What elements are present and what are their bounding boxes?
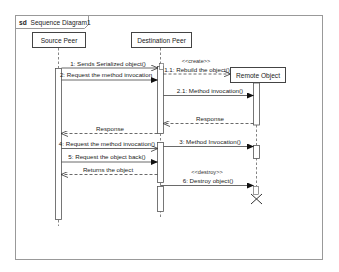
message-1[interactable]: 1: Sends Serialized object() — [62, 60, 158, 68]
lifeline-label: Destination Peer — [137, 37, 187, 44]
svg-text:<<create>>: <<create>> — [182, 58, 211, 64]
svg-text:1: Sends Serialized object(): 1: Sends Serialized object() — [70, 60, 146, 67]
svg-text:2.1: Method invocation(): 2.1: Method invocation() — [177, 87, 243, 94]
activation-bar — [158, 143, 164, 183]
lifeline-label: Remote Object — [236, 72, 280, 80]
svg-text:1.1: Rebuild the object(): 1.1: Rebuild the object() — [164, 66, 230, 73]
frame-title: sd Sequence Diagram1 — [19, 19, 91, 27]
activation-bar — [254, 187, 259, 195]
activation-bar-nested — [160, 64, 164, 70]
svg-text:3: Method Invocation(): 3: Method Invocation() — [179, 138, 241, 145]
svg-text:2: Request the method invocati: 2: Request the method invocation — [60, 71, 153, 78]
activation-bar — [254, 146, 260, 159]
lifeline-label: Source Peer — [41, 37, 78, 44]
svg-text:<<destroy>>: <<destroy>> — [191, 169, 222, 175]
svg-text:Response: Response — [196, 115, 224, 122]
activation-bar — [158, 67, 164, 134]
svg-text:4: Request the method invocati: 4: Request the method invocation() — [59, 140, 155, 147]
svg-text:6: Destroy object(): 6: Destroy object() — [183, 177, 234, 184]
svg-text:Returns the object: Returns the object — [83, 166, 133, 173]
activation-bar — [158, 187, 164, 212]
activation-bar — [254, 83, 260, 125]
svg-text:Response: Response — [96, 125, 124, 132]
svg-text:5: Request the object back(): 5: Request the object back() — [68, 153, 145, 160]
sequence-diagram: sd Sequence Diagram1 Source Peer Destina… — [0, 0, 339, 272]
